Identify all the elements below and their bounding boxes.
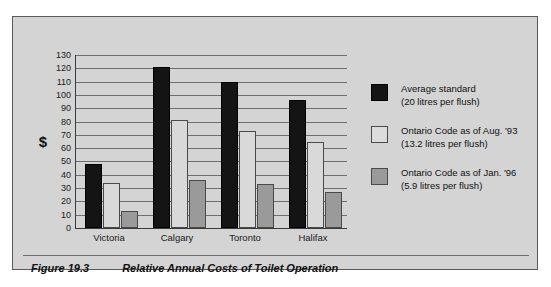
- legend-item: Ontario Code as of Aug. '93(13.2 litres …: [371, 125, 536, 151]
- legend-series-name: Ontario Code as of Aug. '93: [401, 125, 536, 138]
- legend-swatch: [371, 126, 388, 143]
- bar-group: [153, 55, 206, 228]
- bar: [189, 180, 206, 228]
- y-tick-label: 130: [39, 51, 71, 60]
- bar: [239, 131, 256, 228]
- y-tick-label: 60: [39, 144, 71, 153]
- bar: [257, 184, 274, 228]
- legend-series-detail: (20 litres per flush): [401, 96, 536, 109]
- y-tick-label: 10: [39, 211, 71, 220]
- y-tick-label: 40: [39, 171, 71, 180]
- y-tick-label: 30: [39, 184, 71, 193]
- caption-divider: [23, 255, 529, 256]
- y-tick-label: 20: [39, 197, 71, 206]
- bar: [85, 164, 102, 228]
- legend-series-name: Ontario Code as of Jan. '96: [401, 167, 536, 180]
- plot-area: [75, 55, 347, 228]
- legend-item: Average standard(20 litres per flush): [371, 83, 536, 109]
- legend-swatch: [371, 84, 388, 101]
- caption-title: Relative Annual Costs of Toilet Operatio…: [122, 262, 338, 274]
- bar-group: [85, 55, 138, 228]
- legend-series-detail: (13.2 litres per flush): [401, 138, 536, 151]
- x-axis-line: [75, 228, 347, 229]
- legend-series-detail: (5.9 litres per flush): [401, 180, 536, 193]
- y-tick-label: 70: [39, 131, 71, 140]
- legend-label: Ontario Code as of Jan. '96(5.9 litres p…: [401, 167, 536, 192]
- legend-label: Average standard(20 litres per flush): [401, 83, 536, 108]
- bar: [325, 192, 342, 228]
- y-tick-label: 0: [39, 224, 71, 233]
- y-tick-label: 100: [39, 91, 71, 100]
- y-tick-label: 120: [39, 64, 71, 73]
- bar: [171, 120, 188, 228]
- x-axis-category-label: Halifax: [273, 232, 353, 243]
- bar: [221, 82, 238, 228]
- bar: [103, 183, 120, 228]
- bar: [307, 142, 324, 229]
- bar: [153, 67, 170, 228]
- y-axis-line: [75, 55, 76, 229]
- caption-figure-number: Figure 19.3: [31, 262, 89, 274]
- y-tick-label: 110: [39, 78, 71, 87]
- y-axis-tick-labels: 1301201101009080706050403020100: [35, 55, 71, 228]
- y-tick-label: 90: [39, 104, 71, 113]
- bar-group: [289, 55, 342, 228]
- bar: [121, 211, 138, 228]
- legend-series-name: Average standard: [401, 83, 536, 96]
- y-tick-label: 50: [39, 157, 71, 166]
- bar-group: [221, 55, 274, 228]
- figure-caption: Figure 19.3 Relative Annual Costs of Toi…: [31, 262, 338, 274]
- legend-swatch: [371, 168, 388, 185]
- y-tick-label: 80: [39, 118, 71, 127]
- bar: [289, 100, 306, 228]
- legend-label: Ontario Code as of Aug. '93(13.2 litres …: [401, 125, 536, 150]
- figure-panel: $ 1301201101009080706050403020100 Averag…: [12, 16, 538, 270]
- chart-legend: Average standard(20 litres per flush)Ont…: [371, 83, 536, 209]
- legend-item: Ontario Code as of Jan. '96(5.9 litres p…: [371, 167, 536, 193]
